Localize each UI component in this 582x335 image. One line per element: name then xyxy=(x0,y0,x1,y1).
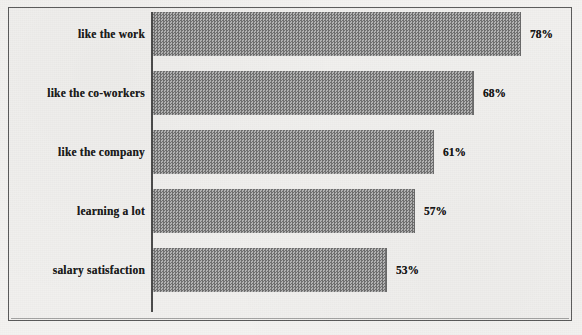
bar-group: 78% xyxy=(153,12,553,56)
chart-frame: like the work 78% like the co-workers 68… xyxy=(8,7,572,321)
bar-value-like-the-work: 78% xyxy=(530,28,553,40)
bar-value-like-the-co-workers: 68% xyxy=(483,87,506,99)
bar-like-the-company xyxy=(153,130,434,174)
bar-value-learning-a-lot: 57% xyxy=(424,205,447,217)
bar-row: like the company 61% xyxy=(9,130,571,174)
scanned-page: like the work 78% like the co-workers 68… xyxy=(0,0,582,335)
bar-salary-satisfaction xyxy=(153,248,387,292)
bar-value-like-the-company: 61% xyxy=(443,146,466,158)
plot-area: like the work 78% like the co-workers 68… xyxy=(9,8,571,320)
bar-group: 57% xyxy=(153,189,447,233)
category-label-salary-satisfaction: salary satisfaction xyxy=(9,248,145,292)
category-label-like-the-work: like the work xyxy=(9,12,145,56)
bar-row: like the co-workers 68% xyxy=(9,71,571,115)
bar-group: 68% xyxy=(153,71,506,115)
bar-row: like the work 78% xyxy=(9,12,571,56)
bar-group: 53% xyxy=(153,248,419,292)
category-label-like-the-company: like the company xyxy=(9,130,145,174)
category-label-like-the-co-workers: like the co-workers xyxy=(9,71,145,115)
bar-learning-a-lot xyxy=(153,189,415,233)
bar-row: learning a lot 57% xyxy=(9,189,571,233)
bar-group: 61% xyxy=(153,130,466,174)
bar-like-the-co-workers xyxy=(153,71,474,115)
bar-row: salary satisfaction 53% xyxy=(9,248,571,292)
bar-value-salary-satisfaction: 53% xyxy=(396,264,419,276)
category-label-learning-a-lot: learning a lot xyxy=(9,189,145,233)
bar-like-the-work xyxy=(153,12,521,56)
